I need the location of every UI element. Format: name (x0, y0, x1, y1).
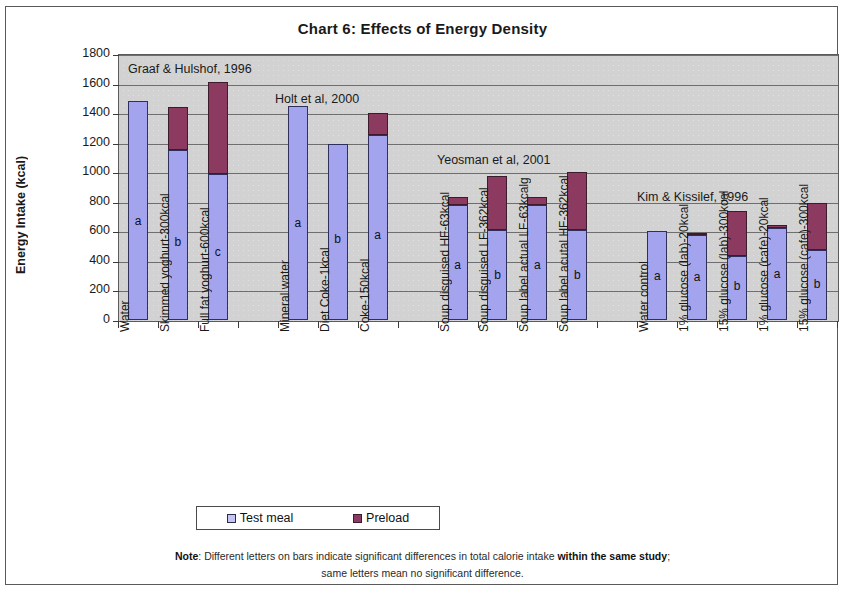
legend-swatch-test-meal-icon (227, 514, 236, 523)
y-axis-tick (113, 232, 119, 233)
y-axis-tick-label: 1400 (56, 105, 110, 119)
y-axis-tick (113, 203, 119, 204)
x-axis-label: Soup label acutal HF-362kcal (557, 175, 571, 332)
study-annotation: Kim & Kissilef, 1996 (637, 190, 748, 204)
y-axis-tick (113, 291, 119, 292)
y-axis-tick (113, 144, 119, 145)
footnote: Note: Different letters on bars indicate… (0, 548, 845, 582)
x-axis-tick (398, 321, 399, 328)
chart-page: Chart 6: Effects of Energy Density Energ… (0, 0, 845, 593)
x-axis-label: Mineral water (278, 260, 292, 332)
x-axis-label: 15% glucose (lab)-300kcal (717, 191, 731, 332)
x-axis-tick (597, 321, 598, 328)
y-axis-tick-label: 200 (56, 282, 110, 296)
bar-segment-preload[interactable] (368, 113, 388, 135)
x-axis-label: Soup disguised LF-362kcal (477, 187, 491, 332)
x-axis-label: Skimmed yoghurt-300kcal (158, 193, 172, 332)
y-axis-tick (113, 55, 119, 56)
y-axis-tick-label: 1600 (56, 76, 110, 90)
x-axis-label: Diet Coke-1kcal (318, 247, 332, 332)
x-axis-label: Water control (637, 261, 651, 332)
footnote-text-a: : Different letters on bars indicate sig… (198, 550, 557, 562)
bar-segment-preload[interactable] (168, 107, 188, 150)
y-axis-tick (113, 85, 119, 86)
legend-label-test-meal: Test meal (240, 511, 294, 525)
x-axis-label: 1% glucose (lab)-20kcal (677, 204, 691, 332)
x-axis-tick (837, 321, 838, 328)
y-axis-title: Energy Intake (kcal) (14, 130, 32, 300)
legend-item-preload: Preload (353, 511, 409, 525)
y-axis-tick-label: 400 (56, 253, 110, 267)
page-title: Chart 6: Effects of Energy Density (0, 20, 845, 37)
bar-segment-test-meal[interactable] (128, 101, 148, 320)
y-axis-tick-label: 1800 (56, 46, 110, 60)
legend-item-test-meal: Test meal (227, 511, 294, 525)
x-axis-label: Water (118, 300, 132, 332)
y-axis-tick (113, 173, 119, 174)
x-axis-tick (238, 321, 239, 328)
footnote-emphasis: within the same study (557, 550, 667, 562)
y-axis-tick (113, 262, 119, 263)
bar-segment-preload[interactable] (208, 82, 228, 174)
footnote-text-b: ; (667, 550, 670, 562)
y-axis-tick-label: 1200 (56, 135, 110, 149)
study-annotation: Yeosman et al, 2001 (437, 153, 551, 167)
x-axis-label: 15% glucose (cafe)-300kcal (797, 184, 811, 332)
y-axis-tick (113, 114, 119, 115)
y-axis-tick-label: 800 (56, 194, 110, 208)
x-axis-label: 1% glucose (cafe)-20kcal (757, 197, 771, 332)
bar-column[interactable]: a (128, 54, 148, 320)
x-axis-label: Soup label actual LF-63kcalg (517, 177, 531, 332)
y-axis-tick-label: 600 (56, 223, 110, 237)
footnote-note-label: Note (175, 550, 198, 562)
footnote-line-1: Note: Different letters on bars indicate… (0, 548, 845, 565)
x-axis-label: Coke-150kcal (358, 259, 372, 332)
study-annotation: Holt et al, 2000 (275, 92, 359, 106)
x-axis-label: Soup disguised HF-63kcal (438, 192, 452, 332)
study-annotation: Graaf & Hulshof, 1996 (128, 62, 252, 76)
y-axis-tick-label: 1000 (56, 164, 110, 178)
legend-label-preload: Preload (366, 511, 409, 525)
legend-swatch-preload-icon (353, 514, 362, 523)
y-axis-tick-label: 0 (56, 312, 110, 326)
chart-legend: Test meal Preload (196, 506, 440, 530)
x-axis-label: Full fat yoghurt-600kcal (198, 207, 212, 332)
footnote-line-2: same letters mean no significant differe… (0, 565, 845, 582)
